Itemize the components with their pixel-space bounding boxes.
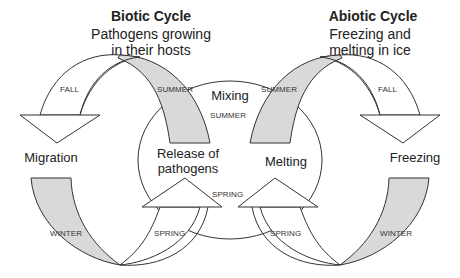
center-season-summer: SUMMER [210, 111, 246, 120]
abiotic-season-summer: SUMMER [261, 85, 297, 94]
abiotic-season-winter: WINTER [380, 229, 412, 238]
abiotic-fall-arrowhead [360, 115, 440, 143]
biotic-fall-arrowhead [20, 115, 100, 143]
stage-release-1: Release of [148, 146, 228, 161]
biotic-season-summer: SUMMER [157, 85, 193, 94]
biotic-season-winter: WINTER [50, 229, 82, 238]
abiotic-cycle-subtitle-2: melting in ice [300, 42, 440, 58]
biotic-winter-band [31, 178, 120, 265]
abiotic-season-fall: FALL [378, 85, 397, 94]
biotic-cycle-subtitle-2: in their hosts [66, 42, 236, 58]
stage-melting: Melting [246, 154, 326, 169]
abiotic-cycle-subtitle-1: Freezing and [300, 26, 440, 42]
stage-release-2: pathogens [148, 161, 228, 176]
center-season-spring: SPRING [212, 190, 243, 199]
abiotic-fall-arc [320, 55, 420, 115]
biotic-fall-arc [40, 55, 140, 115]
biotic-season-spring: SPRING [154, 229, 185, 238]
stage-mixing: Mixing [200, 88, 260, 103]
stage-freezing: Freezing [370, 150, 460, 165]
stage-migration: Migration [6, 150, 96, 165]
abiotic-cycle-title: Abiotic Cycle [308, 8, 438, 24]
abiotic-winter-band [340, 178, 429, 265]
biotic-cycle-title: Biotic Cycle [86, 8, 216, 24]
biotic-season-fall: FALL [60, 85, 79, 94]
abiotic-season-spring: SPRING [270, 229, 301, 238]
biotic-cycle-subtitle-1: Pathogens growing [66, 26, 236, 42]
